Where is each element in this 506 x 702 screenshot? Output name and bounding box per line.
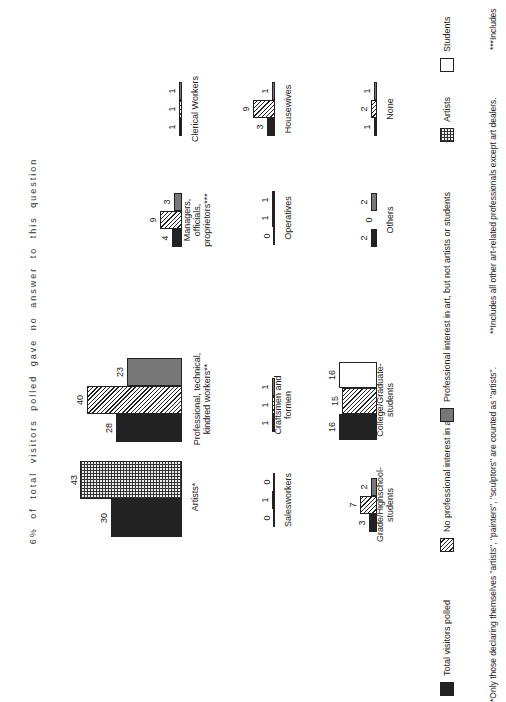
value-label: 3	[255, 115, 265, 139]
group-others: 2 0 2 Others	[285, 193, 395, 247]
bars: 3 9 1	[165, 82, 275, 136]
swatch-solid-icon	[440, 682, 454, 696]
swatch-white-icon	[440, 58, 454, 72]
footnote-3: ***Includes	[488, 8, 498, 50]
legend-item-professional: Professional interest in art, but not ar…	[440, 192, 454, 422]
value-label: 9	[148, 208, 158, 232]
value-label: 16	[327, 415, 337, 439]
bars: 16 15 16	[267, 360, 377, 440]
value-label: 30	[99, 506, 109, 530]
value-label: 15	[330, 389, 340, 413]
legend-item-artists: Artists	[440, 97, 454, 142]
legend-item-no-professional: No professional interest in art	[440, 415, 454, 552]
bar-total	[374, 118, 377, 136]
bars: 0 1 0	[165, 473, 275, 527]
bars: 2 0 2	[267, 193, 377, 247]
bar-professional	[374, 82, 377, 100]
group-none: 1 2 1 None	[285, 82, 395, 136]
value-label: 9	[241, 97, 251, 121]
category-label: College/Graduate-students	[375, 350, 395, 450]
rotated-chart-figure: 6% of total visitors polled gave no answ…	[0, 0, 506, 702]
category-label: Others	[385, 183, 395, 257]
legend: Total visitors polled No professional in…	[440, 0, 460, 702]
legend-label: Professional interest in art, but not ar…	[442, 192, 452, 402]
swatch-gray-icon	[440, 408, 454, 422]
bars: 3 7 2	[267, 478, 377, 532]
value-label: 28	[104, 416, 114, 440]
bar-students	[339, 362, 377, 388]
legend-item-total: Total visitors polled	[440, 600, 454, 696]
footnote-1: *Only those declaring themselves "artist…	[488, 367, 498, 702]
category-label: Grade/Highschool-students	[375, 468, 395, 542]
bar-total	[339, 414, 377, 440]
value-label: 2	[359, 190, 369, 214]
footnotes: *Only those declaring themselves "artist…	[488, 0, 502, 702]
bars: 1 2 1	[267, 82, 377, 136]
bars: 0 1 1	[165, 191, 275, 245]
legend-label: Students	[442, 16, 452, 52]
group-grade-highschool: 3 7 2 Grade/Highschool-students	[285, 478, 395, 532]
chart-title: 6% of total visitors polled gave no answ…	[28, 0, 38, 702]
legend-label: Artists	[442, 97, 452, 122]
category-label: None	[385, 72, 395, 146]
legend-label: Total visitors polled	[442, 600, 452, 676]
bar-professional	[371, 193, 377, 211]
value-label: 7	[348, 493, 358, 517]
footnote-2: **Includes all other art-related profess…	[488, 97, 498, 334]
bar-no-professional	[342, 388, 377, 414]
group-college-graduate: 16 15 16 College/Graduate-students	[285, 360, 395, 440]
value-label: 1	[362, 79, 372, 103]
value-label: 40	[75, 388, 85, 412]
value-label: 43	[69, 468, 79, 492]
value-label: 3	[357, 511, 367, 535]
swatch-hatch-icon	[440, 538, 454, 552]
value-label: 23	[115, 360, 125, 384]
bars: 1 1 1	[165, 378, 275, 432]
legend-item-students: Students	[440, 16, 454, 72]
value-label: 16	[327, 363, 337, 387]
swatch-grid-icon	[440, 128, 454, 142]
value-label: 2	[359, 475, 369, 499]
legend-label: No professional interest in art	[442, 415, 452, 532]
